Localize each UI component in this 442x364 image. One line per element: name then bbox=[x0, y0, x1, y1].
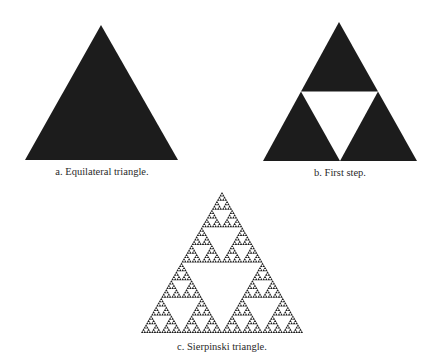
triangle-shape bbox=[256, 289, 259, 291]
triangle-shape bbox=[184, 296, 187, 298]
triangle-shape bbox=[285, 309, 288, 311]
triangle-shape bbox=[225, 331, 228, 333]
triangle-shape bbox=[174, 296, 177, 298]
triangle-shape bbox=[154, 322, 157, 324]
triangle-shape bbox=[194, 287, 197, 289]
triangle-shape bbox=[232, 251, 235, 253]
triangle-shape bbox=[217, 225, 220, 227]
triangle-shape bbox=[264, 293, 267, 295]
triangle-shape bbox=[161, 296, 164, 298]
triangle-shape bbox=[194, 238, 197, 240]
triangle-shape bbox=[198, 258, 201, 260]
triangle-shape bbox=[246, 324, 249, 326]
triangle-shape bbox=[256, 271, 259, 273]
triangle-shape bbox=[227, 260, 230, 262]
triangle-shape bbox=[226, 201, 229, 203]
triangle-shape bbox=[202, 331, 205, 333]
triangle-shape bbox=[193, 249, 196, 251]
triangle-shape bbox=[187, 291, 190, 293]
triangle-shape bbox=[249, 240, 252, 242]
triangle-shape bbox=[169, 331, 172, 333]
triangle-shape bbox=[230, 225, 233, 227]
triangle-shape bbox=[176, 331, 179, 333]
triangle-shape bbox=[169, 313, 172, 315]
triangle-shape bbox=[232, 216, 235, 218]
triangle-shape bbox=[195, 236, 198, 238]
triangle-shape bbox=[251, 245, 254, 247]
triangle-shape bbox=[213, 320, 216, 322]
triangle-shape bbox=[269, 276, 272, 278]
triangle-shape bbox=[264, 267, 267, 269]
triangle-shape bbox=[156, 309, 159, 311]
triangle-shape bbox=[156, 331, 159, 333]
triangle-shape bbox=[204, 260, 207, 262]
triangle-shape bbox=[144, 326, 147, 328]
triangle-shape bbox=[268, 274, 271, 276]
triangle-shape bbox=[192, 296, 195, 298]
triangle-shape bbox=[270, 318, 273, 320]
triangle-shape bbox=[285, 331, 288, 333]
triangle-shape bbox=[184, 331, 187, 333]
triangle-shape bbox=[245, 256, 248, 258]
triangle-shape bbox=[228, 329, 231, 331]
triangle-shape bbox=[152, 311, 155, 313]
triangle-shape bbox=[202, 313, 205, 315]
triangle-shape bbox=[266, 271, 269, 273]
triangle-shape bbox=[194, 322, 197, 324]
triangle-shape bbox=[218, 205, 221, 207]
triangle-shape bbox=[194, 291, 197, 293]
triangle-shape bbox=[279, 293, 282, 295]
triangle-shape bbox=[255, 287, 258, 289]
triangle-shape bbox=[204, 326, 207, 328]
triangle-shape bbox=[275, 326, 278, 328]
triangle-shape bbox=[216, 254, 219, 256]
triangle-shape bbox=[161, 300, 164, 302]
triangle-shape bbox=[230, 207, 233, 209]
triangle-shape bbox=[165, 307, 168, 309]
triangle-shape bbox=[174, 274, 177, 276]
triangle-shape bbox=[236, 307, 239, 309]
triangle-shape bbox=[247, 296, 250, 298]
triangle-shape bbox=[260, 296, 263, 298]
triangle-shape bbox=[254, 258, 257, 260]
triangle-shape bbox=[171, 282, 174, 284]
triangle-shape bbox=[187, 326, 190, 328]
triangle-shape bbox=[228, 205, 231, 207]
triangle-shape bbox=[238, 302, 241, 304]
triangle-shape bbox=[190, 280, 193, 282]
triangle-shape bbox=[147, 320, 150, 322]
triangle-shape bbox=[222, 207, 225, 209]
triangle-shape bbox=[246, 307, 249, 309]
triangle-shape bbox=[288, 313, 291, 315]
triangle-shape bbox=[173, 320, 176, 322]
triangle-shape bbox=[213, 329, 216, 331]
triangle-shape bbox=[206, 218, 209, 220]
triangle-shape bbox=[146, 331, 149, 333]
triangle-shape bbox=[178, 329, 181, 331]
triangle-shape bbox=[273, 296, 276, 298]
triangle-shape bbox=[204, 234, 207, 236]
triangle-shape bbox=[223, 205, 226, 207]
triangle-shape bbox=[208, 320, 211, 322]
triangle-shape bbox=[226, 254, 229, 256]
triangle-shape bbox=[209, 322, 212, 324]
triangle-shape bbox=[280, 300, 283, 302]
triangle-shape bbox=[278, 296, 281, 298]
triangle-shape bbox=[204, 243, 207, 245]
triangle-shape bbox=[259, 276, 262, 278]
triangle-shape bbox=[183, 329, 186, 331]
triangle-shape bbox=[264, 276, 267, 278]
triangle-shape bbox=[242, 260, 245, 262]
triangle-shape bbox=[275, 296, 278, 298]
triangle-shape bbox=[192, 318, 195, 320]
triangle-shape bbox=[230, 322, 233, 324]
triangle-shape bbox=[246, 236, 249, 238]
triangle-shape bbox=[263, 278, 266, 280]
triangle-shape bbox=[193, 293, 196, 295]
triangle-shape bbox=[255, 274, 258, 276]
triangle-shape bbox=[193, 258, 196, 260]
triangle-shape bbox=[217, 331, 220, 333]
triangle-shape bbox=[145, 324, 148, 326]
triangle-shape bbox=[259, 293, 262, 295]
triangle-shape bbox=[152, 320, 155, 322]
